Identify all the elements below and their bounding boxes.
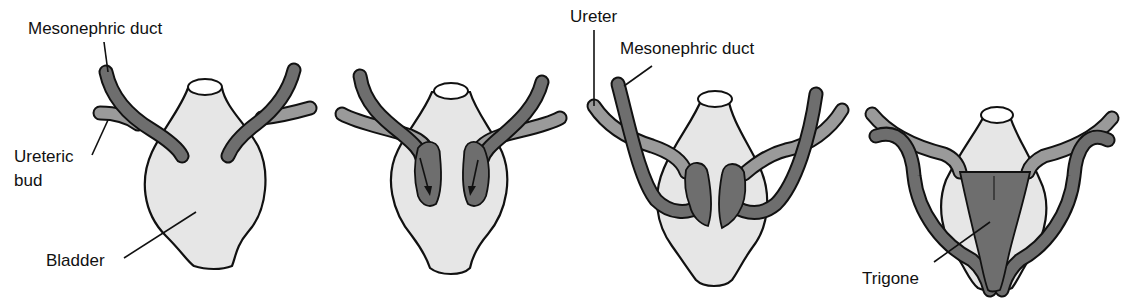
label-ureteric-bud-line2: bud — [14, 171, 42, 190]
bladder-shape — [657, 98, 767, 286]
leader-ureteric-bud — [92, 120, 108, 155]
label-mesonephric-duct: Mesonephric duct — [28, 19, 162, 38]
leader-mesonephric-duct — [624, 66, 652, 86]
stage-3: Ureter Mesonephric duct — [570, 7, 842, 286]
stage-2 — [342, 76, 560, 274]
bladder-neck — [434, 83, 468, 99]
bladder-development-diagram: Mesonephric duct Ureteric bud Bladder — [0, 0, 1128, 302]
label-bladder: Bladder — [46, 251, 105, 270]
bladder-neck — [981, 107, 1013, 123]
stage-4: Trigone — [862, 107, 1112, 292]
bladder-neck — [698, 91, 732, 107]
label-mesonephric-duct: Mesonephric duct — [620, 39, 754, 58]
bladder-neck — [188, 79, 222, 95]
bladder-shape — [145, 88, 266, 269]
incorporated-duct-left — [415, 142, 441, 206]
label-ureter: Ureter — [570, 7, 618, 26]
bladder-shape — [391, 92, 507, 274]
label-trigone: Trigone — [862, 269, 919, 288]
label-ureteric-bud-line1: Ureteric — [14, 147, 74, 166]
stage-1: Mesonephric duct Ureteric bud Bladder — [14, 19, 310, 270]
